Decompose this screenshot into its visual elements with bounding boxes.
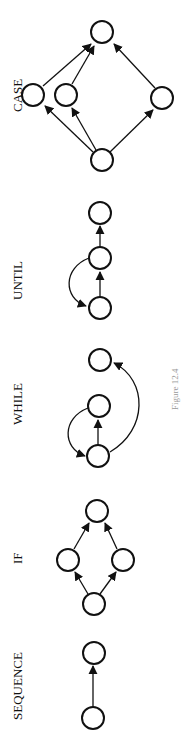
node-w2 xyxy=(88,395,110,417)
edge-i3-i4 xyxy=(105,523,117,549)
node-c2 xyxy=(22,84,44,106)
node-i3 xyxy=(112,549,134,571)
edge-c4-c5 xyxy=(114,44,155,88)
node-i1 xyxy=(83,593,105,615)
node-w1 xyxy=(87,445,109,467)
edge-u2-u1 xyxy=(69,258,89,306)
node-c3 xyxy=(55,84,77,106)
diagram-if xyxy=(57,500,134,615)
label-sequence: SEQUENCE xyxy=(10,652,25,720)
node-u1 xyxy=(89,297,111,319)
label-until: UNTIL xyxy=(10,261,25,300)
edge-w1-w3 xyxy=(110,363,139,452)
node-u2 xyxy=(89,247,111,269)
diagram-until xyxy=(69,202,111,319)
diagram-while xyxy=(68,349,139,467)
edge-c1-c4 xyxy=(110,110,153,152)
node-u3 xyxy=(89,202,111,224)
node-c5 xyxy=(91,21,113,43)
control-structures-diagram: SEQUENCE IF WHILE UNTIL CASE Figure 12.4 xyxy=(0,0,182,743)
node-s2 xyxy=(83,642,105,664)
node-i4 xyxy=(86,500,108,522)
label-if: IF xyxy=(10,552,25,564)
edge-w2-w1 xyxy=(68,408,88,456)
edge-i2-i4 xyxy=(74,523,89,549)
diagram-sequence xyxy=(82,642,105,729)
diagram-case xyxy=(22,21,173,171)
edge-i1-i3 xyxy=(100,572,116,594)
label-while: WHILE xyxy=(10,383,25,425)
edge-c1-c2 xyxy=(45,106,93,152)
node-w3 xyxy=(89,349,111,371)
node-s1 xyxy=(82,707,104,729)
node-c4 xyxy=(151,87,173,109)
node-c1 xyxy=(91,149,113,171)
figure-caption: Figure 12.4 xyxy=(170,368,180,410)
edge-c2-c5 xyxy=(43,44,91,86)
node-i2 xyxy=(57,549,79,571)
edge-i1-i2 xyxy=(75,572,88,594)
